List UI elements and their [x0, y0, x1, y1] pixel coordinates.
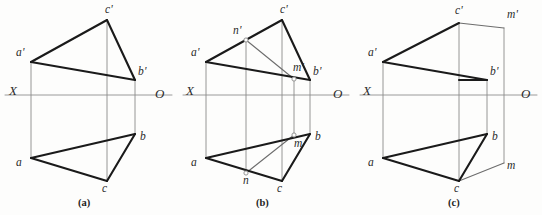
axis-label-x-a: X — [9, 84, 17, 97]
line-n-m-b — [246, 135, 294, 173]
point-label-c-prime-b: c' — [280, 4, 288, 16]
panel-caption-c: (c) — [448, 198, 460, 209]
point-label-c-prime-c: c' — [455, 5, 463, 17]
edge-a-b-a — [31, 134, 135, 158]
panel-caption-a: (a) — [78, 198, 90, 209]
axis-label-o-a: O — [155, 87, 165, 100]
edge-a-prime-c-prime-a — [31, 20, 107, 62]
point-label-c-prime-a: c' — [105, 4, 113, 16]
edge-a-b-c — [383, 134, 487, 158]
point-label-m-prime-b: m' — [293, 62, 304, 74]
point-label-b-prime-a: b' — [138, 66, 147, 78]
edge-a-c-c — [383, 158, 459, 181]
line-c-m-c — [459, 163, 504, 181]
axis-label-x-b: X — [186, 84, 194, 97]
point-label-b-prime-c: b' — [490, 66, 499, 78]
point-label-n-b: n — [243, 175, 249, 187]
panel-caption-b: (b) — [256, 198, 269, 209]
point-label-b-b: b — [315, 131, 321, 143]
point-marker-n-prime-b — [244, 38, 248, 42]
point-label-a-c: a — [368, 157, 374, 169]
point-label-b-prime-b: b' — [313, 66, 322, 78]
projection-figure: a'c'b'acbXO(a)a'c'b'acbn'm'nmXO(b)a'c'b'… — [0, 0, 542, 215]
point-label-a-prime-b: a' — [191, 47, 200, 59]
edge-a-prime-c-prime-c — [383, 23, 459, 62]
axis-label-o-b: O — [333, 87, 343, 100]
point-label-b-a: b — [140, 131, 146, 143]
point-label-a-prime-c: a' — [368, 47, 377, 59]
edge-c-prime-b-prime-a — [107, 20, 135, 80]
point-label-m-b: m — [294, 138, 303, 150]
point-label-b-c: b — [492, 131, 498, 143]
edge-a-prime-b-prime-a — [31, 62, 135, 80]
point-label-c-b: c — [277, 183, 282, 195]
drawing-canvas — [0, 0, 542, 215]
point-label-a-prime-a: a' — [16, 47, 25, 59]
point-marker-m-prime-b — [292, 77, 296, 81]
point-label-a-b: a — [191, 157, 197, 169]
edge-a-prime-b-prime-c — [383, 62, 487, 80]
point-label-c-a: c — [102, 183, 107, 195]
edge-c-b-c — [459, 134, 487, 181]
axis-label-o-c: O — [521, 87, 531, 100]
point-label-m-prime-c: m' — [507, 9, 518, 21]
point-label-m-c: m — [507, 160, 516, 172]
line-c-prime-m-prime-c — [459, 23, 504, 28]
point-label-n-prime-b: n' — [233, 25, 242, 37]
edge-c-b-a — [107, 134, 135, 181]
point-label-c-c: c — [454, 183, 459, 195]
point-label-a-a: a — [16, 157, 22, 169]
axis-label-x-c: X — [363, 84, 371, 97]
edge-a-c-a — [31, 158, 107, 181]
